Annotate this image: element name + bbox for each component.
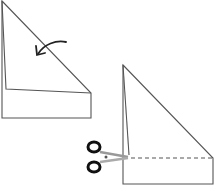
paper-outline (123, 65, 213, 184)
folding-diagram (0, 0, 217, 193)
inner-fold-edge (123, 65, 129, 155)
scissors-icon (88, 142, 128, 172)
diagram-canvas (0, 0, 217, 193)
step-2-paper (123, 65, 213, 184)
paper-outline (2, 1, 91, 118)
step-1-folded-paper (2, 1, 91, 118)
curved-arrow-icon (36, 42, 66, 56)
